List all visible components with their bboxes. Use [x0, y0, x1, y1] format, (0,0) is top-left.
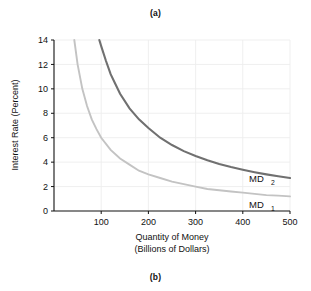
curve-label-md1-subscript: 1 — [271, 205, 275, 212]
x-tick-label: 100 — [94, 217, 109, 227]
y-axis-title: Interest Rate (Percent) — [10, 79, 20, 170]
curve-label-md1: MD — [249, 199, 264, 210]
x-tick-label: 200 — [141, 217, 156, 227]
y-tick-label: 4 — [43, 157, 48, 167]
x-axis-title-line2: (Billions of Dollars) — [134, 244, 209, 254]
figure-container: (a) 02468101214 100200300400500 MD 2 MD … — [0, 0, 311, 291]
y-tick-label: 2 — [43, 182, 48, 192]
panel-label-b: (b) — [0, 272, 311, 282]
curve-md2 — [99, 40, 290, 178]
money-demand-chart: 02468101214 100200300400500 MD 2 MD 1 In… — [0, 24, 311, 269]
x-tick-label: 300 — [188, 217, 203, 227]
y-tick-label: 6 — [43, 133, 48, 143]
curve-label-md2-subscript: 2 — [271, 179, 275, 186]
x-tick-labels-group: 100200300400500 — [94, 211, 298, 227]
curve-label-md2: MD — [249, 173, 264, 184]
y-tick-labels-group: 02468101214 — [38, 35, 54, 216]
x-axis-title-line1: Quantity of Money — [135, 232, 209, 242]
panel-label-a: (a) — [0, 8, 311, 18]
y-tick-label: 0 — [43, 206, 48, 216]
x-tick-label: 400 — [235, 217, 250, 227]
y-tick-label: 12 — [38, 60, 48, 70]
y-tick-label: 10 — [38, 84, 48, 94]
y-tick-label: 14 — [38, 35, 48, 45]
chart-plot-area: 02468101214 100200300400500 MD 2 MD 1 In… — [0, 24, 311, 269]
gridlines-group — [54, 40, 290, 211]
y-tick-label: 8 — [43, 108, 48, 118]
x-tick-label: 500 — [282, 217, 297, 227]
